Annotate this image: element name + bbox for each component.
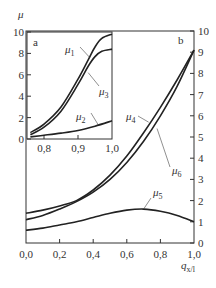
x-axis-title-b: qx/l xyxy=(181,259,196,274)
y-tick-label-a: 6 xyxy=(19,69,25,81)
x-tick-label-b: 0,6 xyxy=(120,248,134,260)
series-label-μ5: μ5 xyxy=(152,186,163,201)
x-tick-label-b: 0,4 xyxy=(86,248,100,260)
x-tick-label-b: 0,8 xyxy=(154,248,168,260)
leader-line-μ5 xyxy=(144,198,151,209)
y-tick-label-b: 9 xyxy=(198,46,204,58)
y-tick-label-a: 0 xyxy=(19,133,25,145)
x-tick-label-a: 0,8 xyxy=(37,142,51,154)
y-tick-label-b: 3 xyxy=(198,173,204,185)
y-axis-title: μ xyxy=(17,8,24,20)
x-tick-label-b: 0,2 xyxy=(53,248,67,260)
y-tick-label-a: 4 xyxy=(19,90,25,102)
y-tick-label-a: 8 xyxy=(19,47,25,59)
y-tick-label-b: 4 xyxy=(198,152,204,164)
y-tick-label-b: 10 xyxy=(198,25,210,37)
x-tick-label-b: 1,0 xyxy=(187,248,201,260)
x-tick-label-a: 1,0 xyxy=(105,142,119,154)
x-tick-label-a: 0,9 xyxy=(71,142,85,154)
y-tick-label-a: 10 xyxy=(13,26,25,38)
y-tick-label-a: 2 xyxy=(19,112,25,124)
leader-line-μ6 xyxy=(157,129,170,167)
panel-a: 0,80,91,00246810μaμ1μ3μ2 xyxy=(13,8,119,154)
series-label-μ4: μ4 xyxy=(125,110,136,125)
panel-label-b: b xyxy=(178,34,184,46)
y-tick-label-b: 5 xyxy=(198,131,204,143)
y-tick-label-b: 2 xyxy=(198,195,204,207)
figure: 0,00,20,40,60,81,0012345678910qx/lbμ4μ6μ… xyxy=(0,0,216,288)
y-tick-label-b: 8 xyxy=(198,67,204,79)
y-tick-label-b: 0 xyxy=(198,237,204,249)
y-tick-label-b: 6 xyxy=(198,110,204,122)
y-tick-label-b: 1 xyxy=(198,216,204,228)
series-label-μ6: μ6 xyxy=(171,164,182,179)
x-tick-label-b: 0,0 xyxy=(19,248,33,260)
leader-line-μ4 xyxy=(138,116,149,122)
y-tick-label-b: 7 xyxy=(198,89,204,101)
panel-label-a: a xyxy=(33,36,38,48)
